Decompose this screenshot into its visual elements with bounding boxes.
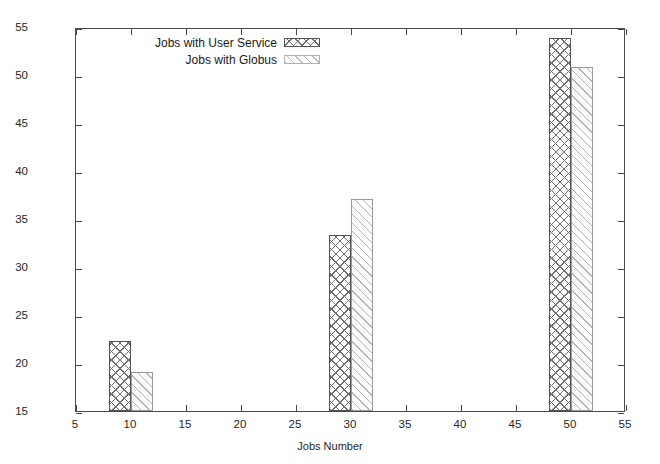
x-tick-mark (406, 405, 407, 411)
x-tick-mark (76, 405, 77, 411)
x-tick-label: 30 (344, 419, 357, 431)
y-tick-label: 30 (15, 262, 28, 274)
y-tick-label: 50 (15, 70, 28, 82)
x-tick-label: 50 (564, 419, 577, 431)
x-axis-title: Jobs Number (0, 440, 660, 452)
y-tick-mark (76, 173, 82, 174)
x-tick-label: 15 (179, 419, 192, 431)
y-tick-mark (618, 29, 624, 30)
crosshatch-swatch (284, 38, 320, 47)
y-tick-label: 25 (15, 310, 28, 322)
x-tick-mark (626, 29, 627, 35)
x-tick-mark (241, 405, 242, 411)
diagonal-hatch-swatch (284, 55, 320, 64)
y-tick-mark (618, 317, 624, 318)
y-tick-mark (618, 125, 624, 126)
x-tick-mark (76, 29, 77, 35)
legend-label: Jobs with Globus (186, 53, 277, 67)
y-tick-mark (76, 221, 82, 222)
y-tick-mark (76, 125, 82, 126)
bar (549, 38, 571, 411)
x-tick-label: 55 (619, 419, 632, 431)
x-tick-mark (186, 405, 187, 411)
legend-item: Jobs with User Service (120, 34, 320, 51)
x-tick-label: 10 (124, 419, 137, 431)
legend-label: Jobs with User Service (155, 36, 277, 50)
x-tick-mark (626, 405, 627, 411)
legend-item: Jobs with Globus (120, 51, 320, 68)
y-tick-label: 45 (15, 118, 28, 130)
y-tick-mark (76, 413, 82, 414)
x-tick-mark (461, 29, 462, 35)
x-tick-mark (296, 405, 297, 411)
x-tick-mark (406, 29, 407, 35)
bar (351, 199, 373, 411)
y-tick-mark (76, 269, 82, 270)
x-tick-label: 20 (234, 419, 247, 431)
y-tick-label: 40 (15, 166, 28, 178)
y-tick-label: 55 (15, 22, 28, 34)
bar (571, 67, 593, 411)
x-tick-mark (516, 405, 517, 411)
y-tick-mark (618, 221, 624, 222)
y-tick-mark (618, 413, 624, 414)
x-tick-label: 25 (289, 419, 302, 431)
y-tick-label: 15 (15, 406, 28, 418)
y-tick-mark (76, 77, 82, 78)
x-tick-label: 40 (454, 419, 467, 431)
bar (329, 235, 351, 411)
x-tick-label: 35 (399, 419, 412, 431)
y-tick-label: 35 (15, 214, 28, 226)
x-tick-mark (571, 29, 572, 35)
y-tick-mark (618, 173, 624, 174)
plot-area (75, 28, 625, 412)
y-tick-mark (618, 365, 624, 366)
legend: Jobs with User ServiceJobs with Globus (120, 34, 320, 68)
bar (109, 341, 131, 411)
x-tick-label: 45 (509, 419, 522, 431)
y-tick-mark (76, 365, 82, 366)
y-tick-mark (76, 317, 82, 318)
y-tick-label: 20 (15, 358, 28, 370)
y-tick-mark (618, 77, 624, 78)
bar (131, 372, 153, 411)
x-tick-mark (516, 29, 517, 35)
x-tick-label: 5 (72, 419, 78, 431)
x-tick-mark (351, 29, 352, 35)
x-tick-mark (461, 405, 462, 411)
bar-chart: Turn-around Time (Second) Jobs Number 15… (0, 0, 660, 464)
y-tick-mark (618, 269, 624, 270)
